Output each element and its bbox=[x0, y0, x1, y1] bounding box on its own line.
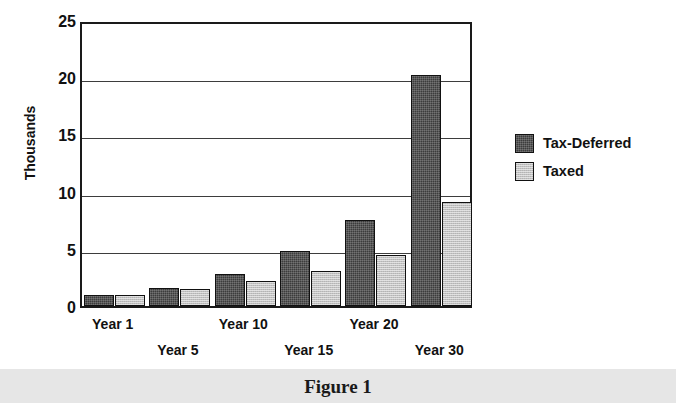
bar bbox=[311, 271, 341, 306]
y-axis-tick-label: 10 bbox=[40, 186, 76, 202]
x-axis-tick-label: Year 5 bbox=[157, 342, 198, 358]
legend-label: Taxed bbox=[543, 164, 584, 179]
bar bbox=[246, 281, 276, 306]
legend-swatch-icon bbox=[515, 134, 534, 153]
bar bbox=[376, 255, 406, 306]
x-axis-tick-label: Year 15 bbox=[284, 342, 333, 358]
y-axis-tick-label: 5 bbox=[40, 243, 76, 259]
bar bbox=[180, 289, 210, 306]
plot-area bbox=[80, 22, 472, 308]
chart-legend: Tax-DeferredTaxed bbox=[515, 133, 631, 189]
bar bbox=[215, 274, 245, 306]
x-axis-tick-labels: Year 1Year 5Year 10Year 15Year 20Year 30 bbox=[80, 310, 472, 366]
bar bbox=[149, 288, 179, 306]
bar-group bbox=[213, 24, 278, 306]
bar-group bbox=[343, 24, 408, 306]
legend-item: Tax-Deferred bbox=[515, 133, 631, 153]
y-axis-tick-label: 0 bbox=[40, 300, 76, 316]
x-axis-tick-label: Year 20 bbox=[349, 316, 398, 332]
y-axis-tick-labels: 0510152025 bbox=[40, 22, 76, 308]
legend-swatch-icon bbox=[515, 162, 534, 181]
x-axis-tick-label: Year 1 bbox=[92, 316, 133, 332]
bar bbox=[442, 202, 472, 306]
y-axis-tick-label: 15 bbox=[40, 128, 76, 144]
bars-layer bbox=[82, 24, 470, 306]
legend-label: Tax-Deferred bbox=[543, 136, 631, 151]
bar-group bbox=[278, 24, 343, 306]
x-axis-tick-label: Year 10 bbox=[219, 316, 268, 332]
bar-group bbox=[409, 24, 474, 306]
bar bbox=[345, 220, 375, 306]
y-axis-tick-label: 25 bbox=[40, 14, 76, 30]
x-axis-tick-label: Year 30 bbox=[415, 342, 464, 358]
bar-group bbox=[147, 24, 212, 306]
bar bbox=[280, 251, 310, 306]
y-axis-tick-label: 20 bbox=[40, 71, 76, 87]
bar bbox=[411, 75, 441, 306]
bar-group bbox=[82, 24, 147, 306]
legend-item: Taxed bbox=[515, 161, 631, 181]
figure-1-container: Thousands 0510152025 Year 1Year 5Year 10… bbox=[0, 0, 676, 403]
y-axis-title: Thousands bbox=[22, 83, 38, 203]
bar bbox=[115, 295, 145, 306]
bar bbox=[84, 295, 114, 306]
figure-caption: Figure 1 bbox=[0, 376, 676, 398]
